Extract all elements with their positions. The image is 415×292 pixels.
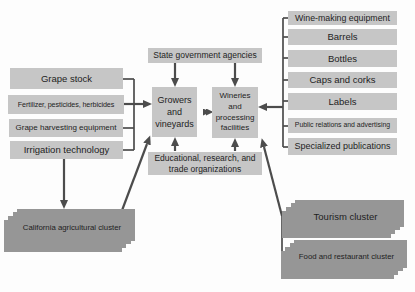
node-state-government-agencies: State government agencies <box>148 48 262 63</box>
left-suppliers-bracket <box>123 79 134 150</box>
node-barrels: Barrels <box>288 29 397 45</box>
diagram-canvas: Grape stock Fertilizer, pesticides, herb… <box>0 0 415 292</box>
node-grape-harvesting-equipment: Grape harvesting equipment <box>9 119 123 137</box>
node-irrigation-technology: Irrigation technology <box>10 141 123 159</box>
node-california-agricultural-cluster: California agricultural cluster <box>13 212 131 244</box>
arrow-clusters-to-wineries <box>264 147 282 216</box>
arrow-california-cluster-to-growers <box>121 144 147 213</box>
node-caps-and-corks: Caps and corks <box>288 72 397 88</box>
node-wineries-and-processing-facilities: Wineries and processing facilities <box>212 87 258 138</box>
node-educational-research-trade: Educational, research, and trade organiz… <box>148 152 262 175</box>
node-fertilizer-pesticides-herbicides: Fertilizer, pesticides, herbicides <box>8 95 124 114</box>
node-tourism-cluster: Tourism cluster <box>291 203 400 230</box>
node-wine-making-equipment: Wine-making equipment <box>288 11 397 25</box>
node-growers-and-vineyards: Growers and vineyards <box>152 87 197 137</box>
node-labels: Labels <box>288 93 397 110</box>
node-bottles: Bottles <box>288 50 397 67</box>
node-public-relations-advertising: Public relations and advertising <box>288 118 397 133</box>
node-grape-stock: Grape stock <box>10 68 123 89</box>
node-food-and-restaurant-cluster: Food and restaurant cluster <box>290 243 403 271</box>
node-specialized-publications: Specialized publications <box>288 138 397 155</box>
